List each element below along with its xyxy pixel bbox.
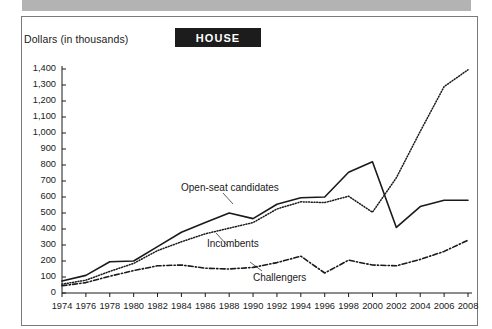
x-tick-label: 1982 <box>145 301 171 311</box>
x-tick-label: 2000 <box>359 301 385 311</box>
x-tick-label: 1994 <box>288 301 314 311</box>
x-tick-label: 1986 <box>192 301 218 311</box>
x-tick-label: 1996 <box>312 301 338 311</box>
y-tick-label: 0 <box>20 287 56 297</box>
y-tick-label: 1,100 <box>20 111 56 121</box>
y-axis-title: Dollars (in thousands) <box>24 33 128 45</box>
series-label-open-seat: Open-seat candidates <box>181 182 279 193</box>
y-tick-label: 400 <box>20 223 56 233</box>
series-label-incumbents: Incumbents <box>207 238 259 249</box>
x-tick-label: 1976 <box>73 301 99 311</box>
y-tick-label: 200 <box>20 255 56 265</box>
x-tick-label: 2004 <box>407 301 433 311</box>
y-tick-label: 600 <box>20 191 56 201</box>
x-tick-label: 1998 <box>336 301 362 311</box>
series-label-challengers: Challengers <box>253 272 306 283</box>
x-tick-label: 2008 <box>455 301 481 311</box>
figure-frame <box>21 16 478 326</box>
page-top-gray-bar <box>22 0 471 11</box>
y-tick-label: 800 <box>20 159 56 169</box>
y-tick-label: 100 <box>20 271 56 281</box>
chart-title-banner: HOUSE <box>175 28 261 47</box>
y-tick-label: 700 <box>20 175 56 185</box>
x-tick-label: 2006 <box>431 301 457 311</box>
chart-title-text: HOUSE <box>196 32 241 44</box>
y-tick-label: 500 <box>20 207 56 217</box>
x-tick-label: 1990 <box>240 301 266 311</box>
y-tick-label: 1,400 <box>20 63 56 73</box>
y-tick-label: 300 <box>20 239 56 249</box>
x-tick-label: 1988 <box>216 301 242 311</box>
x-tick-label: 1980 <box>121 301 147 311</box>
y-tick-label: 1,200 <box>20 95 56 105</box>
x-tick-label: 1992 <box>264 301 290 311</box>
x-tick-label: 1984 <box>168 301 194 311</box>
x-tick-label: 2002 <box>383 301 409 311</box>
y-tick-label: 1,300 <box>20 79 56 89</box>
x-tick-label: 1974 <box>49 301 75 311</box>
y-tick-label: 900 <box>20 143 56 153</box>
y-tick-label: 1,000 <box>20 127 56 137</box>
x-tick-label: 1978 <box>97 301 123 311</box>
